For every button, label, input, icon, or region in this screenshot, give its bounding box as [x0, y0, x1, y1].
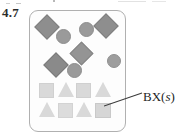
artifact-speck: [6, 3, 10, 4]
bounded-region-box: [29, 10, 126, 132]
circle-marker: [56, 29, 71, 44]
square-marker: [39, 83, 54, 98]
artifact-speck: [152, 1, 166, 2]
square-marker: [76, 83, 91, 98]
triangle-marker: [39, 102, 55, 117]
artifact-speck: [53, 0, 55, 2]
cropped-caption-artifact: [0, 0, 181, 5]
callout-label-main: BX(: [143, 89, 165, 104]
circle-marker: [107, 54, 121, 68]
figure-number-label: 4.7: [2, 6, 19, 20]
diamond-marker: [69, 41, 93, 65]
triangle-marker: [76, 102, 92, 117]
figure-container: 4.7 BX(s): [0, 0, 181, 139]
diamond-marker: [93, 13, 118, 38]
callout-label: BX(s): [143, 89, 175, 104]
circle-marker: [67, 63, 82, 78]
triangle-marker: [58, 82, 74, 97]
artifact-speck: [16, 3, 21, 4]
diamond-marker: [43, 52, 68, 77]
artifact-speck: [118, 1, 146, 2]
callout-label-tail: ): [170, 89, 174, 104]
square-marker: [58, 103, 73, 118]
circle-marker: [79, 22, 94, 37]
callout-leader-line: [104, 92, 142, 108]
